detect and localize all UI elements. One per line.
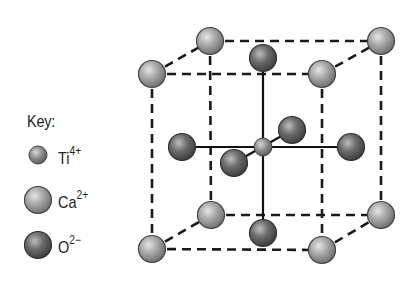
key-o-symbol-text: O bbox=[58, 238, 69, 257]
key-ti-symbol-text: Ti bbox=[58, 149, 70, 168]
key-ca-symbol-text: Ca bbox=[58, 193, 76, 212]
ca-atom bbox=[139, 236, 166, 263]
key-o-symbol bbox=[25, 232, 52, 259]
ca-atom bbox=[309, 237, 336, 264]
ca-atom bbox=[368, 28, 395, 55]
o-atom bbox=[169, 134, 196, 161]
o-atom bbox=[221, 150, 248, 177]
ca-atom bbox=[368, 202, 395, 229]
o-atom bbox=[250, 45, 277, 72]
key-ti-charge: 4+ bbox=[70, 144, 82, 158]
ca-atom bbox=[198, 202, 225, 229]
ca-atom bbox=[139, 61, 166, 88]
key-ca-charge: 2+ bbox=[76, 188, 88, 202]
ti-atom bbox=[254, 138, 272, 156]
o-atom bbox=[338, 134, 365, 161]
key-label-ti: Ti4+ bbox=[58, 146, 81, 169]
ca-atom bbox=[309, 61, 336, 88]
o-atom bbox=[250, 220, 277, 247]
key-label-ca: Ca2+ bbox=[58, 190, 88, 213]
key-ti-symbol bbox=[29, 146, 47, 164]
o-atom bbox=[279, 117, 306, 144]
key-symbols bbox=[25, 146, 52, 259]
key-ca-symbol bbox=[25, 187, 52, 214]
ca-atom bbox=[197, 28, 224, 55]
key-o-charge: 2− bbox=[69, 233, 81, 247]
key-title: Key: bbox=[27, 112, 55, 132]
key-label-o: O2− bbox=[58, 235, 81, 258]
o-atoms-front bbox=[221, 150, 277, 247]
